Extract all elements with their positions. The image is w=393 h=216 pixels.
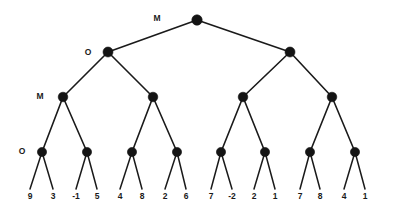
leaf-edge [177,152,186,189]
nodes-layer [37,15,359,157]
tree-edge [108,20,197,52]
leaf-edge [265,152,275,189]
leaf-edge [30,152,42,189]
leaf-values-layer: 93-1548267-2217841 [28,191,368,201]
leaf-edge [132,152,142,189]
leaf-edge [355,152,365,189]
tree-edge [63,97,87,152]
leaf-edge [165,152,177,189]
tree-edge [310,97,332,152]
tree-node[interactable] [82,147,91,156]
leaf-edge [310,152,320,189]
tree-node[interactable] [148,92,158,102]
leaf-value: 6 [184,191,189,201]
tree-edge [197,20,290,52]
leaf-edge [120,152,132,189]
tree-node[interactable] [103,47,113,57]
tree-edge [290,52,332,97]
leaf-edge [87,152,97,189]
leaf-edge [211,152,221,189]
tree-node[interactable] [37,147,46,156]
tree-edge [63,52,108,97]
tree-edge [153,97,177,152]
level-label: O [85,47,92,57]
leaf-edge [42,152,53,189]
leaf-value: 2 [163,191,168,201]
leaf-value: 2 [252,191,257,201]
tree-node[interactable] [260,147,269,156]
leaf-value: 8 [318,191,323,201]
leaf-value: 7 [209,191,214,201]
tree-node[interactable] [58,92,68,102]
leaf-edge [221,152,232,189]
tree-canvas: 93-1548267-2217841 MOMO [0,0,393,216]
game-tree-diagram: 93-1548267-2217841 MOMO [0,0,393,216]
leaf-edge [300,152,310,189]
tree-node[interactable] [216,147,225,156]
tree-edge [108,52,153,97]
leaf-edge [344,152,355,189]
leaf-value: 5 [95,191,100,201]
tree-node[interactable] [172,147,181,156]
edges-layer [42,20,355,152]
tree-node[interactable] [192,15,202,25]
tree-node[interactable] [305,147,314,156]
level-label: M [153,13,160,23]
tree-node[interactable] [327,92,337,102]
tree-node[interactable] [350,147,359,156]
tree-node[interactable] [127,147,136,156]
leaf-value: -2 [228,191,236,201]
leaf-value: 4 [342,191,347,201]
tree-edge [42,97,63,152]
leaf-value: 9 [28,191,33,201]
leaf-value: 8 [140,191,145,201]
leaf-edge [76,152,87,189]
leaf-value: 7 [298,191,303,201]
leaf-value: -1 [72,191,80,201]
level-label: O [19,146,26,156]
leaf-value: 1 [273,191,278,201]
tree-edge [243,97,265,152]
tree-edge [332,97,355,152]
tree-edge [132,97,153,152]
leaf-value: 1 [363,191,368,201]
leaf-value: 4 [118,191,123,201]
tree-node[interactable] [238,92,248,102]
leaf-value: 3 [51,191,56,201]
leaf-edges-layer [30,152,365,189]
leaf-edge [254,152,265,189]
tree-edge [221,97,243,152]
tree-node[interactable] [285,47,295,57]
tree-edge [243,52,290,97]
level-label: M [36,91,43,101]
